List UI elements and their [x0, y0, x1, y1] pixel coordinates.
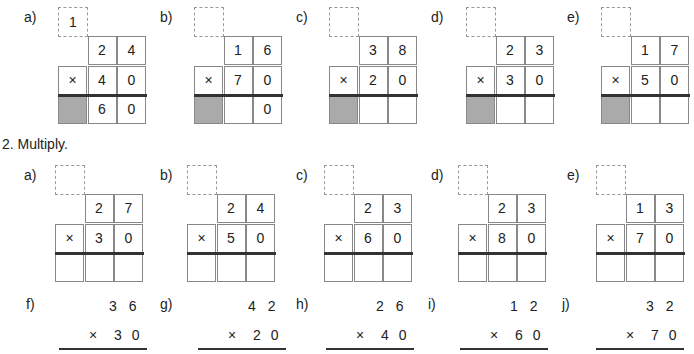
- answer-cell[interactable]: [383, 253, 412, 282]
- answer-cell[interactable]: [525, 95, 554, 124]
- answer-cell[interactable]: 0: [253, 95, 282, 124]
- answer-cell[interactable]: [246, 253, 275, 282]
- carry-box[interactable]: [194, 7, 224, 37]
- answer-cell[interactable]: [114, 253, 143, 282]
- carry-box[interactable]: [601, 7, 631, 37]
- bottom-number: × 3 0: [89, 327, 142, 343]
- answer-cell[interactable]: [359, 95, 388, 124]
- multiplier-cell: ×: [601, 66, 630, 95]
- carry-box[interactable]: [596, 165, 626, 195]
- answer-cell[interactable]: [187, 253, 216, 282]
- digit-cell: 3: [525, 36, 554, 65]
- digit-cell: 2: [488, 194, 517, 223]
- problem-label: c): [296, 9, 308, 25]
- multiplier-cell: 5: [631, 66, 660, 95]
- carry-box[interactable]: [55, 165, 85, 195]
- carry-box[interactable]: [466, 7, 496, 37]
- problem-label: g): [160, 296, 172, 312]
- digit-cell: 3: [359, 36, 388, 65]
- product-line: [58, 94, 147, 97]
- answer-cell[interactable]: [488, 253, 517, 282]
- multiplier-cell: 2: [359, 66, 388, 95]
- digit-cell: 7: [660, 36, 689, 65]
- problem-label: a): [24, 167, 36, 183]
- digit-cell: 1: [631, 36, 660, 65]
- multiplier-cell: ×: [187, 224, 216, 253]
- multiplier-cell: 7: [224, 66, 253, 95]
- multiplier-cell: ×: [55, 224, 84, 253]
- multiplier-cell: 0: [525, 66, 554, 95]
- answer-line: [326, 348, 414, 350]
- answer-line: [198, 348, 286, 350]
- answer-cell[interactable]: 0: [117, 95, 146, 124]
- carry-box[interactable]: 1: [58, 7, 88, 37]
- instruction-title: 2. Multiply.: [2, 136, 68, 152]
- answer-cell[interactable]: [324, 253, 353, 282]
- shaded-cell: [329, 95, 358, 124]
- answer-cell[interactable]: [85, 253, 114, 282]
- answer-cell[interactable]: 6: [88, 95, 117, 124]
- answer-cell[interactable]: [655, 253, 684, 282]
- multiplier-cell: ×: [596, 224, 625, 253]
- product-line: [55, 252, 144, 255]
- multiplier-cell: 0: [117, 66, 146, 95]
- product-line: [329, 94, 418, 97]
- answer-cell[interactable]: [55, 253, 84, 282]
- answer-cell[interactable]: [517, 253, 546, 282]
- top-number: 3 2: [646, 298, 677, 314]
- multiplier-cell: ×: [466, 66, 495, 95]
- problem-label: j): [562, 296, 570, 312]
- carry-box[interactable]: [187, 165, 217, 195]
- bottom-number: × 4 0: [356, 327, 409, 343]
- answer-line: [596, 348, 684, 350]
- product-line: [324, 252, 413, 255]
- carry-box[interactable]: [458, 165, 488, 195]
- answer-cell[interactable]: [596, 253, 625, 282]
- product-line: [187, 252, 276, 255]
- top-number: 4 2: [248, 298, 279, 314]
- digit-cell: 6: [253, 36, 282, 65]
- multiplier-cell: ×: [324, 224, 353, 253]
- shaded-cell: [601, 95, 630, 124]
- answer-cell[interactable]: [354, 253, 383, 282]
- shaded-cell: [194, 95, 223, 124]
- answer-cell[interactable]: [496, 95, 525, 124]
- problem-label: h): [296, 296, 308, 312]
- answer-cell[interactable]: [217, 253, 246, 282]
- answer-cell[interactable]: [631, 95, 660, 124]
- product-line: [596, 252, 685, 255]
- bottom-number: × 6 0: [490, 327, 543, 343]
- digit-cell: 2: [217, 194, 246, 223]
- digit-cell: 2: [354, 194, 383, 223]
- bottom-number: × 7 0: [626, 327, 679, 343]
- problem-label: b): [160, 167, 172, 183]
- multiplier-cell: 7: [626, 224, 655, 253]
- digit-cell: 3: [383, 194, 412, 223]
- answer-cell[interactable]: [224, 95, 253, 124]
- multiplier-cell: 5: [217, 224, 246, 253]
- multiplier-cell: 0: [388, 66, 417, 95]
- answer-cell[interactable]: [458, 253, 487, 282]
- carry-box[interactable]: [324, 165, 354, 195]
- digit-cell: 1: [224, 36, 253, 65]
- answer-cell[interactable]: [626, 253, 655, 282]
- answer-line: [59, 348, 147, 350]
- multiplier-cell: 0: [114, 224, 143, 253]
- multiplier-cell: 0: [383, 224, 412, 253]
- answer-cell[interactable]: [388, 95, 417, 124]
- top-number: 3 6: [109, 298, 140, 314]
- multiplier-cell: 8: [488, 224, 517, 253]
- multiplier-cell: 0: [246, 224, 275, 253]
- multiplier-cell: 0: [655, 224, 684, 253]
- multiplier-cell: ×: [58, 66, 87, 95]
- digit-cell: 2: [496, 36, 525, 65]
- problem-label: e): [567, 167, 579, 183]
- digit-cell: 4: [117, 36, 146, 65]
- problem-label: f): [26, 296, 35, 312]
- digit-cell: 8: [388, 36, 417, 65]
- carry-box[interactable]: [329, 7, 359, 37]
- digit-cell: 2: [85, 194, 114, 223]
- answer-line: [460, 348, 548, 350]
- answer-cell[interactable]: [660, 95, 689, 124]
- digit-cell: 3: [517, 194, 546, 223]
